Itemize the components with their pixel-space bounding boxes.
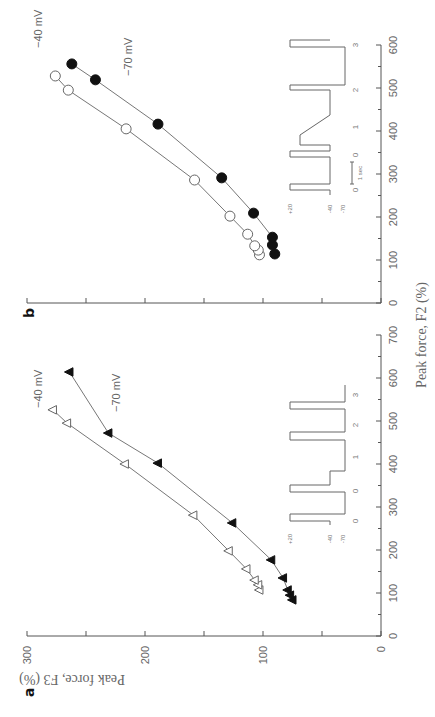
scale-bar-label: 1 sec [357,166,363,180]
data-point [278,574,287,583]
panel-a: 01002003000100200300400500600700−40 mV−7… [21,326,399,665]
f2-tick-label: 200 [387,208,399,226]
pulse-number: 3 [351,392,360,397]
scale-bar [350,162,354,184]
figure: 01002003000100200300400500600700−40 mV−7… [0,0,435,717]
f2-tick-label: 0 [387,633,399,639]
pulse-number: 2 [351,422,360,427]
f2-tick-label: 700 [387,326,399,344]
data-point [90,75,100,85]
f3-tick-label: 200 [139,646,151,664]
data-point [267,232,277,242]
voltage-level-label: -40 [327,534,333,543]
f2-tick-label: 100 [387,584,399,602]
voltage-level-label: +20 [287,203,293,214]
data-point [225,211,235,221]
voltage-level-label: -40 [327,204,333,213]
f2-tick-label: 500 [387,412,399,430]
data-point [241,565,250,574]
f2-tick-label: 100 [387,251,399,269]
data-point [121,124,131,134]
pulse-number: 3 [351,42,360,47]
f3-tick-label: 300 [21,646,33,664]
pulse-number: 2 [351,87,360,92]
voltage-level-label: +20 [287,533,293,544]
series-line [53,410,260,590]
data-point [153,119,163,129]
data-point [103,429,112,438]
panel-label-a: a [21,688,37,697]
voltage-level-label: -70 [340,534,346,543]
x-axis-title: Peak force, F2 (%) [414,282,430,388]
data-point [67,59,77,69]
series-label-40mv: −40 mV [32,369,44,408]
stimulus-trace [290,385,345,525]
series-label-70mv: −70 mV [110,373,122,412]
protocol-inset: +20-40-70001231 sec [287,40,363,214]
data-point [63,85,73,95]
f2-tick-label: 600 [387,36,399,54]
pulse-number: 1 [351,454,360,459]
data-point [270,249,280,259]
f2-tick-label: 200 [387,541,399,559]
data-point [48,406,57,415]
f2-tick-label: 400 [387,122,399,140]
data-point [153,459,162,468]
f3-tick-label: 100 [257,646,269,664]
stimulus-trace [290,40,345,195]
data-point [250,241,260,251]
pulse-number: 0 [351,518,360,523]
data-point [190,175,200,185]
data-point [249,208,259,218]
data-point [250,576,258,585]
pulse-number: 1 [351,124,360,129]
panel-b: 0100200300400500600−40 mV−70 mV+20-40-70… [27,9,399,306]
voltage-level-label: -70 [340,204,346,213]
data-point [50,71,60,81]
f2-tick-label: 400 [387,455,399,473]
series-label-40mv: −40 mV [32,9,44,48]
f2-tick-label: 500 [387,79,399,97]
pulse-number: 0 [351,187,360,192]
protocol-inset: +20-40-7000123 [287,385,360,544]
series-line [55,76,259,255]
pulse-number: 0 [351,152,360,157]
f2-tick-label: 300 [387,165,399,183]
f3-tick-label: 0 [375,646,387,652]
data-point [64,368,73,377]
f2-tick-label: 300 [387,498,399,516]
data-point [243,229,253,239]
series-line [72,64,275,254]
y-axis-title: Peak force, F3 (%) [19,671,125,687]
series-label-70mv: −70 mV [122,37,134,76]
pulse-number: 0 [351,488,360,493]
series-line [69,372,292,600]
data-point [224,547,233,556]
f2-tick-label: 0 [387,300,399,306]
f2-tick-label: 600 [387,369,399,387]
data-point [217,173,227,183]
panel-label-b: b [21,308,37,318]
